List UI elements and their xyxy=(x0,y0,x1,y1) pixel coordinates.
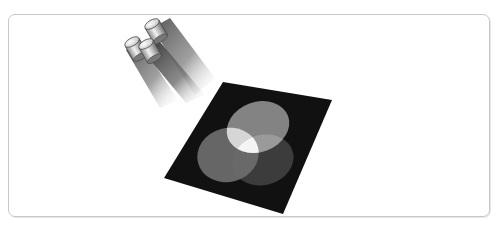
light-beams xyxy=(126,18,215,108)
spotlight-scene xyxy=(0,0,500,229)
